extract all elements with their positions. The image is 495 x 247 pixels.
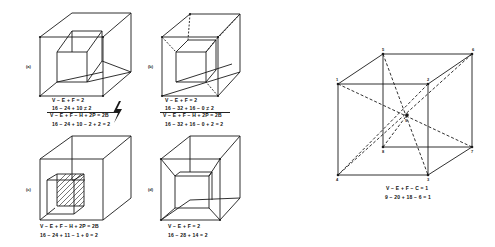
vertex-label-9: 9 <box>405 118 407 123</box>
hatched-face <box>30 170 120 210</box>
eq-a-3: V − E + F − H + 2P = 2B <box>50 112 109 118</box>
vertex-label-2: 2 <box>427 77 429 82</box>
eq-d-2: 16 − 28 + 14 = 2 <box>168 232 208 238</box>
cube-b <box>162 14 240 96</box>
eq-b-4: 16 − 32 + 16 − 0 + 2 = 2 <box>165 121 223 127</box>
vertex-label-4: 4 <box>336 177 338 182</box>
eq-c-1: V − E + F − H + 2P = 2B <box>40 223 99 229</box>
eq-c-2: 16 − 24 + 11 − 1 + 0 = 2 <box>40 232 98 238</box>
eq-b-2: 16 − 32 + 16 − 0 ≠ 2 <box>165 105 214 111</box>
cube-c <box>40 136 131 220</box>
eq-a-4: 16 − 24 + 10 − 2 + 2 = 2 <box>52 121 110 127</box>
eq-d-1: V − E + F = 2 <box>168 223 200 229</box>
eq-a-1: V − E + F = 2 <box>52 97 84 103</box>
label-a: (a) <box>26 64 31 69</box>
label-c: (c) <box>26 187 31 192</box>
cube-e <box>338 54 472 175</box>
cube-d <box>161 136 240 220</box>
vertex-label-7: 7 <box>471 149 473 154</box>
eq-b-3: V − E + F − H + 2P = 2B <box>163 112 222 118</box>
eq-e-2: 9 − 20 + 18 − 6 = 1 <box>385 194 431 200</box>
cube-a <box>40 13 131 96</box>
vertex-label-6: 6 <box>472 47 474 52</box>
eq-b-1: V − E + F = 2 <box>165 97 197 103</box>
label-d: (d) <box>148 187 153 192</box>
vertex-label-5: 5 <box>382 47 384 52</box>
vertex-label-3: 3 <box>427 177 429 182</box>
vertex-label-8: 8 <box>382 149 384 154</box>
label-b: (b) <box>148 64 153 69</box>
eq-e-1: V − E + F − C = 1 <box>386 185 428 191</box>
vertex-label-1: 1 <box>336 77 338 82</box>
eq-a-2: 16 − 24 + 10 ≠ 2 <box>52 105 92 111</box>
